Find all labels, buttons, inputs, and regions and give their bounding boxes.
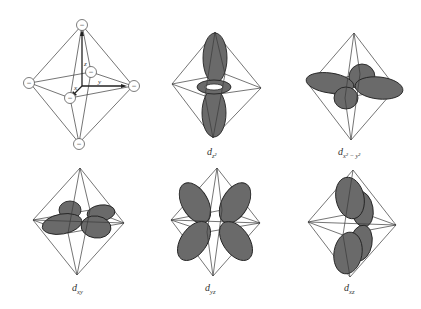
orbital-label-dxy: dxy <box>72 282 83 295</box>
orbital-lobe-upper <box>203 33 227 83</box>
svg-text:−: − <box>27 79 32 86</box>
orbital-label-dxz: dxz <box>344 282 355 295</box>
panel-dyz: dyz <box>171 168 260 295</box>
orbital-lobe-lower-left <box>171 216 218 267</box>
panel-dx2-y2: dx² − y² <box>305 33 404 159</box>
svg-text:−: − <box>77 140 82 147</box>
svg-text:−: − <box>132 82 137 89</box>
svg-text:−: − <box>89 68 94 75</box>
orbital-label-dx2-y2: dx² − y² <box>338 146 361 159</box>
panel-dxy: dxy <box>33 168 124 295</box>
panel-ligand-field: z y x − − − − − − <box>24 20 140 150</box>
orbital-label-dz2: dz² <box>207 146 218 159</box>
axis-label-z: z <box>83 60 87 68</box>
panel-dxz: dxz <box>308 170 396 295</box>
axis-label-y: y <box>97 78 102 86</box>
orbital-label-dyz: dyz <box>205 282 216 295</box>
d-orbital-octahedral-figure: z y x − − − − − − <box>0 0 421 309</box>
svg-text:−: − <box>68 94 73 101</box>
panel-dz2: dz² <box>172 32 261 159</box>
orbital-lobe-lower <box>202 89 226 137</box>
orbital-lobe-lower-right <box>213 216 260 267</box>
orbital-lobe-right <box>354 75 404 102</box>
orbital-lobe-upper-right <box>213 177 258 228</box>
svg-text:−: − <box>80 21 85 28</box>
